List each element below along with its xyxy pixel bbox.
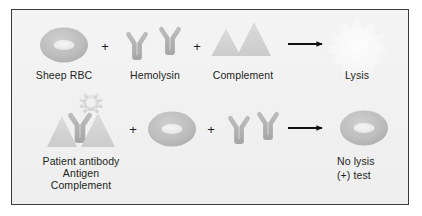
lysis-starburst-shape bbox=[320, 14, 394, 85]
antigen-cog-icon bbox=[81, 93, 101, 114]
diagram-shapes bbox=[0, 0, 422, 216]
sheep-rbc-shape-2 bbox=[148, 112, 196, 147]
hemolysin-shape bbox=[128, 29, 178, 57]
hemolysin-shape-2 bbox=[230, 114, 276, 141]
figure-root: + + + + Sheep RBC Hemolysin Complement L… bbox=[0, 0, 422, 216]
no-lysis-rbc-shape bbox=[340, 111, 388, 146]
sheep-rbc-shape bbox=[40, 28, 88, 63]
patient-complex-shape bbox=[47, 93, 115, 147]
complement-triangles-shape bbox=[212, 22, 272, 56]
